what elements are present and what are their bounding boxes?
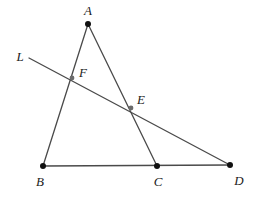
intersection-point-group — [70, 76, 134, 111]
segment-bd — [43, 165, 230, 166]
geometry-canvas — [0, 0, 256, 198]
geometry-figure: A B C D E F L — [0, 0, 256, 198]
point-b-dot — [40, 163, 46, 169]
line-label-l: L — [16, 50, 23, 63]
point-label-c: C — [154, 175, 163, 188]
point-e-dot — [129, 106, 134, 111]
point-label-a: A — [84, 4, 92, 17]
point-d-dot — [227, 162, 233, 168]
segment-group — [29, 24, 230, 166]
point-label-f: F — [79, 66, 87, 79]
point-f-dot — [70, 76, 75, 81]
transversal-line-l — [29, 58, 230, 165]
point-label-b: B — [36, 175, 44, 188]
point-label-e: E — [137, 93, 145, 106]
point-a-dot — [85, 21, 91, 27]
point-c-dot — [154, 163, 160, 169]
point-label-d: D — [234, 174, 243, 187]
segment-ab — [43, 24, 88, 166]
